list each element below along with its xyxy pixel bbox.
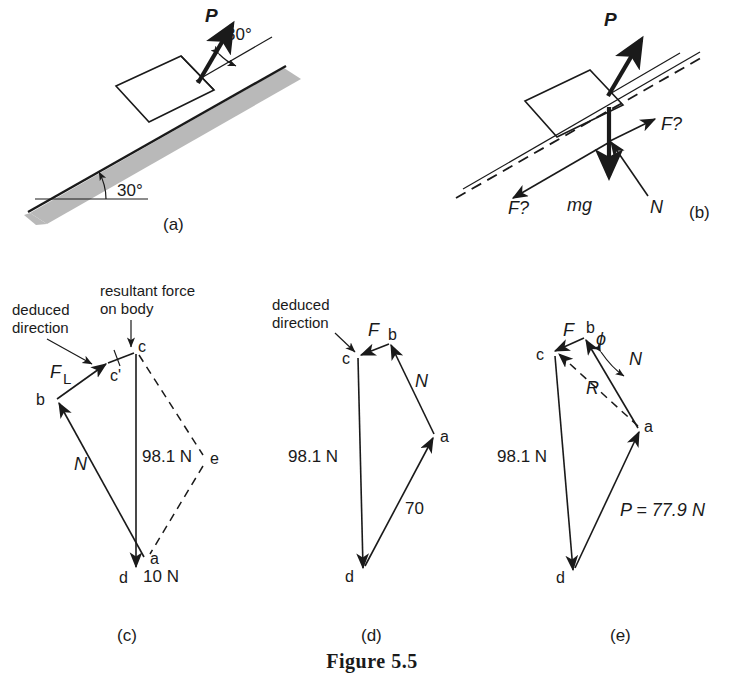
note-deduced-line1-d: deduced	[272, 296, 330, 313]
edge-c-to-e-dashed-c	[139, 355, 203, 455]
vertex-cprime-label-c: c'	[110, 367, 121, 384]
note-deduced-line1-c: deduced	[12, 301, 70, 318]
panel-e: c b a d F N ϕ R 98.1 N P = 77.9 N (e)	[497, 319, 706, 645]
applied-value-label-c: 10 N	[143, 567, 179, 586]
note-deduced-line2-d: direction	[272, 314, 329, 331]
incline-hatch-band	[30, 68, 301, 224]
figure-caption: Figure 5.5	[326, 650, 417, 673]
normal-label-d: N	[415, 371, 429, 391]
friction-down-label-b: F?	[508, 198, 529, 218]
panel-b: P F? F? mg N (b)	[456, 9, 710, 222]
vertex-a-label-c: a	[150, 550, 159, 567]
vertex-b-label-e: b	[586, 319, 595, 336]
panel-tag-a: (a)	[163, 215, 184, 234]
resultant-label-e: R	[586, 378, 599, 398]
panel-tag-b: (b)	[689, 203, 710, 222]
edge-cprime-to-c-c	[108, 353, 134, 363]
weight-label-b: mg	[567, 195, 592, 215]
edge-c-to-d-d	[358, 358, 363, 568]
angle-force-label-a: 30°	[226, 25, 252, 44]
panel-d: deduced direction c b a d F N 98.1 N 70 …	[272, 296, 449, 645]
vertex-b-label-d: b	[388, 326, 397, 343]
friction-up-arrow-b	[610, 119, 655, 141]
edge-e-to-a-dashed-c	[150, 466, 203, 554]
note-resultant-line2-c: on body	[100, 300, 154, 317]
vertex-c-label-d: c	[342, 350, 350, 367]
force-p-label-a: P	[205, 5, 218, 26]
applied-value-label-e: P = 77.9 N	[620, 500, 706, 520]
panel-c: deduced direction resultant force on bod…	[12, 282, 219, 645]
vertex-a-label-d: a	[440, 428, 449, 445]
weight-value-label-e: 98.1 N	[497, 447, 547, 466]
panel-tag-c: (c)	[117, 626, 137, 645]
friction-fl-subscript-c: L	[63, 370, 71, 387]
friction-label-e: F	[563, 320, 575, 340]
normal-label-c: N	[74, 454, 88, 474]
vertex-d-label-e: d	[556, 569, 565, 586]
angle-incline-label-a: 30°	[117, 181, 143, 200]
vertex-b-label-c: b	[36, 391, 45, 408]
block-a	[116, 56, 214, 122]
incline-surface-line	[28, 66, 286, 212]
applied-value-label-d: 70	[405, 499, 424, 518]
force-p-label-b: P	[604, 9, 617, 30]
leader-deduced-c	[47, 339, 92, 364]
vertex-c-label-c: c	[138, 338, 146, 355]
note-resultant-line1-c: resultant force	[100, 282, 195, 299]
figure-5-5: P 30° 30° (a) P F? F? mg N (b) dedu	[0, 0, 741, 683]
vertex-a-label-e: a	[644, 418, 653, 435]
weight-value-label-c: 98.1 N	[142, 447, 192, 466]
edge-c-to-d-e	[555, 356, 573, 570]
normal-label-e: N	[629, 349, 643, 369]
edge-a-to-b-c	[59, 403, 144, 557]
weight-value-label-d: 98.1 N	[288, 447, 338, 466]
normal-label-b: N	[650, 197, 664, 217]
panel-tag-d: (d)	[361, 626, 382, 645]
vertex-e-label-c: e	[210, 450, 219, 467]
panel-tag-e: (e)	[610, 626, 631, 645]
friction-fl-label-c: F L	[50, 362, 71, 387]
note-deduced-line2-c: direction	[12, 319, 69, 336]
edge-b-to-c-d	[361, 344, 389, 355]
normal-n-arrow-b	[611, 142, 648, 196]
vertex-d-label-d: d	[345, 568, 354, 585]
vertex-d-label-c: d	[119, 569, 128, 586]
vertex-c-label-e: c	[536, 346, 544, 363]
svg-text:F: F	[50, 362, 62, 382]
force-p-arrow-b	[608, 40, 641, 96]
friction-label-d: F	[368, 320, 380, 340]
panel-a: P 30° 30° (a)	[24, 5, 301, 234]
friction-up-label-b: F?	[661, 114, 682, 134]
figure-canvas: P 30° 30° (a) P F? F? mg N (b) dedu	[0, 0, 741, 683]
angle-phi-label-e: ϕ	[596, 329, 606, 349]
